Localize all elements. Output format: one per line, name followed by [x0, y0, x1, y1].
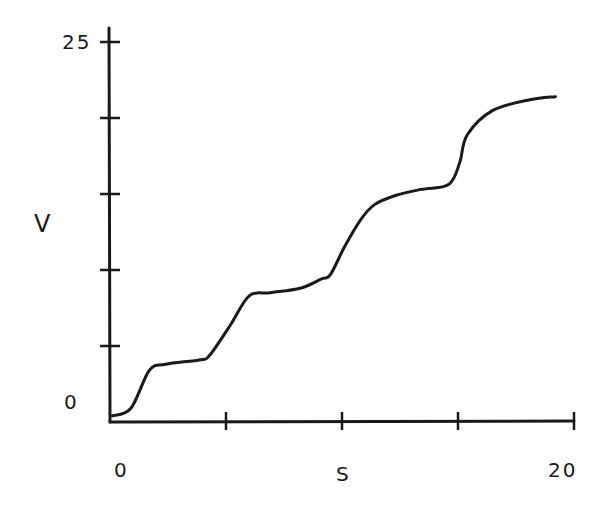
axis-ticks — [100, 42, 574, 430]
y-axis-label: V — [34, 210, 52, 238]
y-tick-label-bottom: 0 — [64, 390, 79, 414]
chart-canvas — [0, 0, 608, 508]
data-line — [112, 97, 555, 416]
x-axis-label: S — [336, 462, 351, 486]
x-tick-label-left: 0 — [114, 458, 129, 482]
y-axis-line — [109, 28, 110, 422]
x-tick-label-right: 20 — [548, 458, 577, 482]
y-tick-label-top: 25 — [62, 30, 91, 54]
